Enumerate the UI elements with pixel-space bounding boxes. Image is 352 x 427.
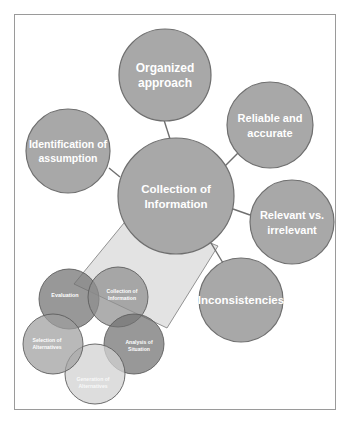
petal-circle-selection-of-alternatives[interactable] <box>23 314 83 374</box>
bubble-relevant-vs-irrelevant[interactable]: Relevant vs. irrelevant <box>250 180 334 264</box>
bubble-identification-of-assumption[interactable]: Identification of assumption <box>26 109 110 193</box>
diagram-canvas: Organized approach Reliable and accurate… <box>0 0 352 427</box>
bubble-circle <box>26 109 110 193</box>
bubble-circle <box>250 180 334 264</box>
connector-reliable-and-accurate <box>225 152 239 166</box>
petal-circles <box>23 267 164 404</box>
hub-circle <box>118 138 234 254</box>
petal-diagram: Evaluation Collection of Information Ana… <box>23 267 164 404</box>
bubble-circle <box>199 258 283 342</box>
hub-bubble-collection-of-information[interactable]: Collection of Information <box>118 138 234 254</box>
bubble-circle <box>227 82 313 168</box>
connector-identification-of-assumption <box>109 168 120 177</box>
connector-relevant-vs-irrelevant <box>233 209 250 215</box>
bubble-reliable-and-accurate[interactable]: Reliable and accurate <box>227 82 313 168</box>
bubble-inconsistencies[interactable]: Inconsistencies <box>198 258 284 342</box>
bubble-circle <box>119 29 211 121</box>
bubble-organized-approach[interactable]: Organized approach <box>119 29 211 121</box>
connector-organized-approach <box>164 120 170 139</box>
mind-map-diagram: Organized approach Reliable and accurate… <box>0 0 352 427</box>
